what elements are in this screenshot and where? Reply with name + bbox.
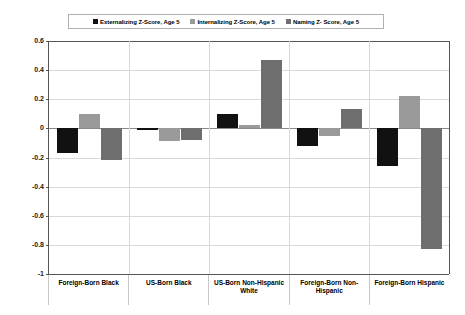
chart-legend: Externalizing Z-Score, Age 5Internalizin… (68, 14, 384, 29)
y-tick-label: -0.4 (4, 183, 44, 190)
bar (181, 128, 202, 140)
y-tick-label: -0.2 (4, 154, 44, 161)
legend-entry: Internalizing Z-Score, Age 5 (190, 19, 274, 25)
bar-group (129, 41, 209, 274)
bar-group (289, 41, 369, 274)
x-category-label: US-Born Non-Hispanic White (209, 275, 289, 305)
bar (261, 60, 282, 128)
legend-entry: Externalizing Z-Score, Age 5 (93, 19, 179, 25)
legend-label: Externalizing Z-Score, Age 5 (100, 19, 179, 25)
y-tick-label: 0.4 (4, 66, 44, 73)
x-category-label: Foreign-Born Black (48, 275, 129, 305)
bar-group (369, 41, 449, 274)
bar (217, 114, 238, 129)
y-tick-label: 0.6 (4, 37, 44, 44)
legend-label: Internalizing Z-Score, Age 5 (197, 19, 274, 25)
bar (377, 128, 398, 166)
x-category-label: Foreign-Born Hispanic (370, 275, 449, 305)
bar (421, 128, 442, 249)
bar (319, 128, 340, 135)
legend-swatch-icon (93, 19, 98, 24)
y-tick-label: -1 (4, 270, 44, 277)
x-axis-category-labels: Foreign-Born BlackUS-Born BlackUS-Born N… (48, 275, 449, 305)
right-axis-line (449, 41, 450, 274)
legend-swatch-icon (286, 19, 291, 24)
y-tick-label: 0 (4, 124, 44, 131)
bar (297, 128, 318, 145)
x-category-label: US-Born Black (129, 275, 209, 305)
x-category-label: Foreign-Born Non-Hispanic (290, 275, 370, 305)
legend-label: Naming Z- Score, Age 5 (293, 19, 359, 25)
bar-group (209, 41, 289, 274)
legend-entry: Naming Z- Score, Age 5 (286, 19, 359, 25)
y-tick-label: 0.2 (4, 95, 44, 102)
bar-chart: Externalizing Z-Score, Age 5Internalizin… (0, 0, 465, 315)
bar (79, 114, 100, 129)
bar (101, 128, 122, 160)
y-tick-label: -0.6 (4, 212, 44, 219)
bar-group (49, 41, 129, 274)
bar (57, 128, 78, 153)
bar (399, 96, 420, 128)
bar (159, 128, 180, 141)
bar (341, 109, 362, 128)
plot-area (48, 41, 449, 275)
y-tick-label: -0.8 (4, 241, 44, 248)
bar (137, 128, 158, 129)
legend-swatch-icon (190, 19, 195, 24)
bar (239, 125, 260, 128)
